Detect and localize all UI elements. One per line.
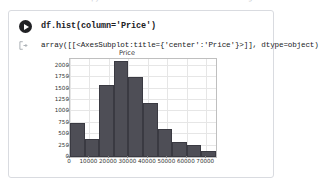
y-tick-label: 250	[43, 142, 69, 148]
y-tick-mark	[67, 99, 69, 100]
y-tick-mark	[67, 88, 69, 89]
y-tick-label: 2000	[43, 62, 69, 68]
x-tick-mark	[108, 156, 109, 158]
histogram-bar	[99, 85, 114, 157]
notebook-cell: df.hist(column='Price') array([[<AxesSub…	[8, 10, 274, 178]
code-input-row: df.hist(column='Price')	[9, 16, 273, 36]
histogram-bar	[70, 123, 85, 157]
histogram-figure: Price 025050075010001250150017502000 010…	[41, 49, 241, 175]
x-tick-label: 70000	[196, 158, 214, 164]
histogram-bar	[114, 61, 129, 157]
x-tick-label: 10000	[80, 158, 98, 164]
x-tick-mark	[88, 156, 89, 158]
x-tick-label: 50000	[157, 158, 175, 164]
plot-area	[69, 58, 217, 158]
gridline-horizontal	[70, 65, 216, 66]
y-tick-label: 750	[43, 119, 69, 125]
y-tick-mark	[67, 110, 69, 111]
output-arrow-icon	[19, 41, 28, 50]
gridline-horizontal	[70, 99, 216, 100]
x-tick-label: 20000	[99, 158, 117, 164]
run-cell-button[interactable]	[19, 20, 32, 33]
histogram-bar	[172, 142, 187, 157]
y-tick-mark	[67, 76, 69, 77]
y-tick-mark	[67, 145, 69, 146]
y-tick-label: 1000	[43, 107, 69, 113]
histogram-bar	[128, 77, 143, 157]
toolbar-item-copy-to-drive[interactable]: Copy to Drive	[82, 0, 130, 2]
x-tick-label: 60000	[177, 158, 195, 164]
y-tick-label: 500	[43, 130, 69, 136]
histogram-bar	[158, 129, 173, 157]
toolbar-item-add-code[interactable]: + Code	[8, 0, 34, 2]
toolbar-item-editing[interactable]: Editing	[228, 0, 252, 2]
gridline-horizontal	[70, 88, 216, 89]
x-axis: 010000200003000040000500006000070000	[69, 156, 215, 170]
y-tick-label: 1500	[43, 85, 69, 91]
x-tick-label: 0	[67, 158, 71, 164]
y-tick-mark	[67, 133, 69, 134]
x-tick-mark	[166, 156, 167, 158]
y-tick-mark	[67, 122, 69, 123]
gridline-vertical	[206, 59, 207, 157]
x-tick-mark	[127, 156, 128, 158]
x-tick-label: 30000	[118, 158, 136, 164]
notebook-toolbar[interactable]: + Code + Text Copy to Drive Connect Edit…	[0, 0, 284, 7]
histogram-bar	[143, 103, 158, 157]
histogram-bar	[85, 139, 100, 157]
x-tick-mark	[186, 156, 187, 158]
y-tick-label: 1750	[43, 73, 69, 79]
gridline-horizontal	[70, 76, 216, 77]
play-icon	[24, 24, 29, 30]
gridline-vertical	[187, 59, 188, 157]
code-text[interactable]: df.hist(column='Price')	[41, 20, 156, 32]
toolbar-item-add-text[interactable]: + Text	[46, 0, 68, 2]
x-tick-label: 40000	[138, 158, 156, 164]
toolbar-item-connect[interactable]: Connect	[172, 0, 201, 2]
x-tick-mark	[205, 156, 206, 158]
x-tick-mark	[147, 156, 148, 158]
y-tick-label: 0	[43, 153, 69, 159]
y-axis: 025050075010001250150017502000	[41, 49, 69, 156]
x-tick-mark	[69, 156, 70, 158]
y-tick-mark	[67, 65, 69, 66]
y-tick-label: 1250	[43, 96, 69, 102]
